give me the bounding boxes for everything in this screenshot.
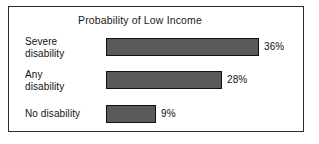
chart-frame: Probability of Low Income Severe disabil…: [8, 6, 304, 132]
bar-any-disability: [106, 71, 222, 89]
bar-row: Any disability 28%: [9, 71, 303, 101]
bar-value-label: 36%: [264, 41, 284, 52]
bar-no-disability: [106, 105, 156, 123]
category-label: Any disability: [25, 69, 64, 92]
bar-row: No disability 9%: [9, 105, 303, 135]
category-label: Severe disability: [25, 36, 64, 59]
bar-row: Severe disability 36%: [9, 38, 303, 68]
bar-value-label: 28%: [227, 74, 247, 85]
bar-value-label: 9%: [161, 108, 176, 119]
bar-severe-disability: [106, 38, 259, 56]
category-label: No disability: [25, 108, 80, 120]
figure-canvas: Probability of Low Income Severe disabil…: [0, 0, 319, 144]
chart-title: Probability of Low Income: [9, 14, 271, 26]
